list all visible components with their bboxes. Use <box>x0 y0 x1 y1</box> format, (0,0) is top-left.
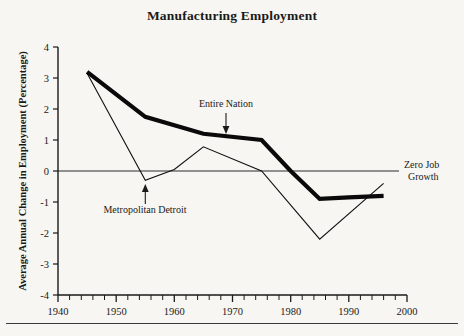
y-tick-label: 0 <box>44 166 49 177</box>
zero-job-growth-annotation: Zero Job Growth Zero Job Growth <box>404 159 439 182</box>
metropolitan-detroit-annotation: Metropolitan Detroit <box>103 184 186 215</box>
zero-job-growth-label-line-2: Growth <box>408 171 439 182</box>
y-tick-label: 1 <box>44 135 49 146</box>
x-tick-label: 1990 <box>338 306 359 317</box>
manufacturing-employment-chart: 4 3 2 1 0 -1 -2 -3 -4 Average Annual Cha… <box>0 0 464 336</box>
y-tick-label: 4 <box>44 42 50 53</box>
x-axis-major-ticks <box>58 295 407 302</box>
y-tick-label: 3 <box>44 73 49 84</box>
x-tick-label: 1970 <box>222 306 243 317</box>
entire-nation-annotation: Entire Nation <box>199 98 253 134</box>
y-axis-title: Average Annual Change in Employment (Per… <box>17 51 29 291</box>
y-tick-label: -4 <box>40 290 49 301</box>
caption-divider <box>6 323 458 324</box>
y-tick-label: 2 <box>44 104 49 115</box>
zero-job-growth-label-line-1: Zero Job <box>404 159 439 170</box>
y-tick-label: -2 <box>40 228 49 239</box>
y-tick-label: -1 <box>40 197 49 208</box>
x-tick-label: 1980 <box>280 306 301 317</box>
y-axis-ticks <box>53 47 58 295</box>
metropolitan-detroit-annotation-label: Metropolitan Detroit <box>103 204 186 215</box>
figure-container: Manufacturing Employment 4 3 2 1 0 -1 -2 <box>0 0 464 336</box>
x-tick-label: 2000 <box>397 306 418 317</box>
x-axis-tick-labels: 1940 1950 1960 1970 1980 1990 2000 <box>48 306 418 317</box>
y-axis-tick-labels: 4 3 2 1 0 -1 -2 -3 -4 <box>40 42 50 301</box>
entire-nation-annotation-label: Entire Nation <box>199 98 253 109</box>
x-tick-label: 1940 <box>48 306 69 317</box>
y-tick-label: -3 <box>40 259 49 270</box>
x-tick-label: 1950 <box>106 306 127 317</box>
series-line-entire-nation <box>87 72 384 199</box>
x-tick-label: 1960 <box>164 306 185 317</box>
